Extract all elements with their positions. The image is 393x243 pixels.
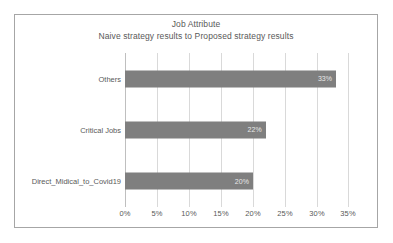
chart-container: Job Attribute Naive strategy results to … — [14, 14, 378, 228]
plot-area: 33% 22% 20% — [125, 53, 349, 207]
chart-title-main: Job Attribute — [15, 19, 377, 31]
bar-row: 20% — [125, 156, 349, 207]
bar-row: 33% — [125, 53, 349, 104]
y-axis-label-direct-midical-to-covid19: Direct_Midical_to_Covid19 — [32, 177, 121, 186]
x-tick-5: 5% — [151, 209, 162, 218]
x-tick-25: 25% — [277, 209, 292, 218]
x-tick-0: 0% — [119, 209, 130, 218]
bar-value-label-others: 33% — [318, 75, 332, 82]
x-tick-35: 35% — [340, 209, 355, 218]
chart-title: Job Attribute Naive strategy results to … — [15, 19, 377, 42]
bar-value-label-critical-jobs: 22% — [247, 126, 261, 133]
bar-row: 22% — [125, 104, 349, 155]
bar-value-label-direct-midical-to-covid19: 20% — [235, 178, 249, 185]
x-tick-20: 20% — [245, 209, 260, 218]
bar-direct-midical-to-covid19[interactable]: 20% — [125, 173, 253, 190]
bar-others[interactable]: 33% — [125, 70, 336, 87]
y-axis-label-row: Critical Jobs — [15, 104, 125, 155]
x-tick-10: 10% — [181, 209, 196, 218]
y-axis-label-row: Others — [15, 53, 125, 104]
y-axis-label-row: Direct_Midical_to_Covid19 — [15, 156, 125, 207]
x-axis-tick-labels: 0% 5% 10% 15% 20% 25% 30% 35% — [125, 209, 349, 223]
y-axis-label-others: Others — [98, 74, 121, 83]
y-axis-label-critical-jobs: Critical Jobs — [80, 125, 121, 134]
x-tick-15: 15% — [213, 209, 228, 218]
chart-subtitle: Naive strategy results to Proposed strat… — [15, 31, 377, 43]
x-tick-30: 30% — [309, 209, 324, 218]
bar-critical-jobs[interactable]: 22% — [125, 121, 266, 138]
